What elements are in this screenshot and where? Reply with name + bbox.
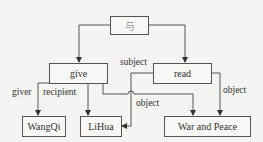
edge-label-give-object: object <box>136 99 159 109</box>
edge-label-giver: giver <box>12 88 32 98</box>
node-wangqi-label: WangQi <box>27 121 60 132</box>
node-war-and-peace: War and Peace <box>164 116 251 137</box>
edge-label-recipient: recipient <box>43 88 76 98</box>
node-root-label: 与 <box>125 18 135 33</box>
node-wangqi: WangQi <box>22 116 66 137</box>
node-lihua-label: LiHua <box>88 121 114 132</box>
edge-label-subject: subject <box>120 58 147 68</box>
node-lihua: LiHua <box>80 116 122 137</box>
node-read-label: read <box>174 68 191 79</box>
node-root: 与 <box>110 16 149 35</box>
node-give: give <box>49 63 108 84</box>
edge-label-read-object: object <box>223 86 246 96</box>
node-read: read <box>153 63 212 84</box>
node-give-label: give <box>70 68 87 79</box>
node-war-and-peace-label: War and Peace <box>178 121 237 132</box>
